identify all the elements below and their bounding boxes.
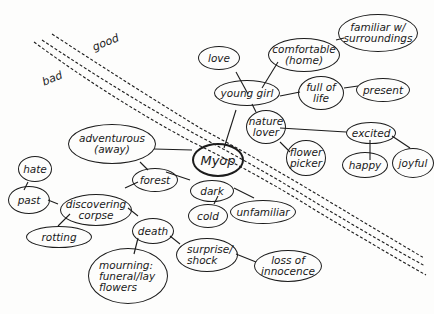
node-flower-picker[interactable]: flower picker [286,140,326,176]
node-excited[interactable]: excited [346,122,396,144]
node-mourning[interactable]: mourning: funeral/lay flowers [88,248,168,304]
node-dark[interactable]: dark [190,180,234,202]
node-unfamiliar[interactable]: unfamiliar [230,200,296,224]
node-forest[interactable]: forest [132,168,178,192]
node-love[interactable]: love [198,46,240,70]
node-present[interactable]: present [356,78,410,102]
node-cold[interactable]: cold [188,204,228,228]
node-surprise[interactable]: surprise/ shock [176,238,238,272]
node-past[interactable]: past [8,186,50,214]
node-happy[interactable]: happy [342,152,388,178]
center-node-myop[interactable]: Myop [192,143,244,177]
node-loss-of-innocence[interactable]: loss of innocence [254,250,322,282]
node-death[interactable]: death [132,218,174,244]
node-full-of-life[interactable]: full of life [298,76,344,110]
node-discovering-corpse[interactable]: discovering corpse [60,194,132,226]
node-familiar[interactable]: familiar w/ surroundings [338,14,418,52]
node-adventurous[interactable]: adventurous (away) [68,124,156,164]
node-rotting[interactable]: rotting [26,226,92,248]
node-comfortable[interactable]: comfortable (home) [268,38,340,72]
node-young-girl[interactable]: young girl [214,80,280,106]
node-hate[interactable]: hate [18,156,52,182]
node-nature-lover[interactable]: nature lover [246,110,286,144]
mind-map-canvas: good bad Myop love comfortable (home) fa… [0,0,434,314]
node-joyful[interactable]: joyful [392,148,434,178]
